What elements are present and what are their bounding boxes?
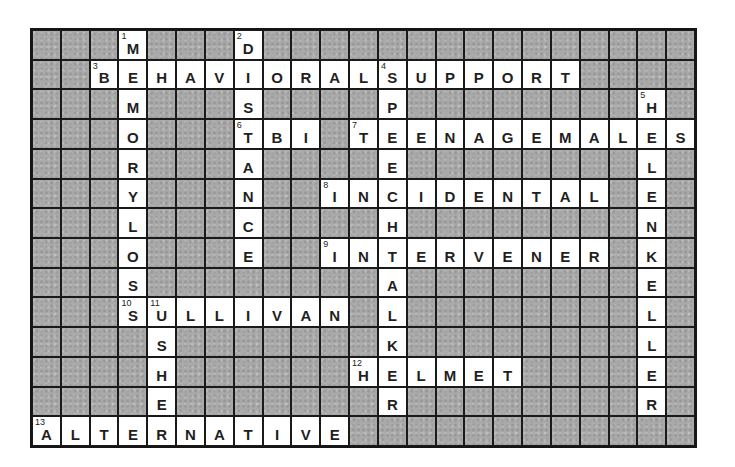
answer-cell[interactable]: V bbox=[264, 298, 291, 326]
answer-cell[interactable]: D bbox=[437, 180, 464, 208]
answer-cell[interactable]: L bbox=[350, 61, 377, 89]
answer-cell[interactable]: 13A bbox=[33, 417, 60, 445]
answer-cell[interactable]: I bbox=[408, 180, 435, 208]
answer-cell[interactable]: O bbox=[264, 61, 291, 89]
answer-cell[interactable]: N bbox=[523, 239, 550, 267]
answer-cell[interactable]: E bbox=[523, 120, 550, 148]
answer-cell[interactable]: E bbox=[638, 120, 665, 148]
answer-cell[interactable]: 4S bbox=[379, 61, 406, 89]
answer-cell[interactable]: E bbox=[148, 388, 175, 416]
answer-cell[interactable]: M bbox=[552, 120, 579, 148]
answer-cell[interactable]: L bbox=[610, 120, 637, 148]
answer-cell[interactable]: 3B bbox=[91, 61, 118, 89]
answer-cell[interactable]: 12H bbox=[350, 358, 377, 386]
answer-cell[interactable]: L bbox=[408, 358, 435, 386]
answer-cell[interactable]: T bbox=[494, 358, 521, 386]
answer-cell[interactable]: A bbox=[465, 120, 492, 148]
answer-cell[interactable]: N bbox=[437, 120, 464, 148]
answer-cell[interactable]: O bbox=[494, 61, 521, 89]
answer-cell[interactable]: N bbox=[321, 298, 348, 326]
answer-cell[interactable]: T bbox=[552, 61, 579, 89]
answer-cell[interactable]: L bbox=[177, 298, 204, 326]
answer-cell[interactable]: L bbox=[206, 298, 233, 326]
answer-cell[interactable]: T bbox=[523, 180, 550, 208]
answer-cell[interactable]: N bbox=[638, 209, 665, 237]
answer-cell[interactable]: S bbox=[148, 328, 175, 356]
answer-cell[interactable]: R bbox=[148, 417, 175, 445]
answer-cell[interactable]: 1M bbox=[119, 31, 146, 59]
answer-cell[interactable]: A bbox=[321, 61, 348, 89]
answer-cell[interactable]: U bbox=[408, 61, 435, 89]
answer-cell[interactable]: L bbox=[581, 180, 608, 208]
answer-cell[interactable]: N bbox=[350, 180, 377, 208]
answer-cell[interactable]: A bbox=[206, 417, 233, 445]
answer-cell[interactable]: 7T bbox=[350, 120, 377, 148]
answer-cell[interactable]: A bbox=[581, 120, 608, 148]
answer-cell[interactable]: S bbox=[119, 269, 146, 297]
answer-cell[interactable]: B bbox=[264, 120, 291, 148]
answer-cell[interactable]: A bbox=[552, 180, 579, 208]
answer-cell[interactable]: R bbox=[292, 61, 319, 89]
answer-cell[interactable]: E bbox=[638, 269, 665, 297]
answer-cell[interactable]: 2D bbox=[235, 31, 262, 59]
answer-cell[interactable]: I bbox=[292, 120, 319, 148]
answer-cell[interactable]: E bbox=[379, 358, 406, 386]
answer-cell[interactable]: K bbox=[379, 328, 406, 356]
answer-cell[interactable]: E bbox=[408, 239, 435, 267]
answer-cell[interactable]: L bbox=[638, 328, 665, 356]
answer-cell[interactable]: M bbox=[119, 90, 146, 118]
answer-cell[interactable]: L bbox=[119, 209, 146, 237]
answer-cell[interactable]: S bbox=[235, 90, 262, 118]
answer-cell[interactable]: V bbox=[465, 239, 492, 267]
answer-cell[interactable]: H bbox=[148, 358, 175, 386]
answer-cell[interactable]: O bbox=[119, 239, 146, 267]
answer-cell[interactable]: M bbox=[437, 358, 464, 386]
answer-cell[interactable]: E bbox=[465, 180, 492, 208]
answer-cell[interactable]: A bbox=[292, 298, 319, 326]
answer-cell[interactable]: E bbox=[494, 239, 521, 267]
answer-cell[interactable]: 10S bbox=[119, 298, 146, 326]
answer-cell[interactable]: E bbox=[379, 150, 406, 178]
answer-cell[interactable]: R bbox=[638, 388, 665, 416]
answer-cell[interactable]: K bbox=[638, 239, 665, 267]
answer-cell[interactable]: A bbox=[235, 150, 262, 178]
answer-cell[interactable]: L bbox=[379, 298, 406, 326]
answer-cell[interactable]: 8I bbox=[321, 180, 348, 208]
answer-cell[interactable]: E bbox=[119, 61, 146, 89]
answer-cell[interactable]: E bbox=[465, 358, 492, 386]
answer-cell[interactable]: E bbox=[638, 180, 665, 208]
answer-cell[interactable]: E bbox=[408, 120, 435, 148]
answer-cell[interactable]: L bbox=[638, 150, 665, 178]
answer-cell[interactable]: A bbox=[379, 269, 406, 297]
answer-cell[interactable]: L bbox=[62, 417, 89, 445]
answer-cell[interactable]: 6T bbox=[235, 120, 262, 148]
answer-cell[interactable]: 9I bbox=[321, 239, 348, 267]
answer-cell[interactable]: V bbox=[206, 61, 233, 89]
answer-cell[interactable]: A bbox=[177, 61, 204, 89]
answer-cell[interactable]: E bbox=[235, 239, 262, 267]
answer-cell[interactable]: O bbox=[119, 120, 146, 148]
answer-cell[interactable]: R bbox=[581, 239, 608, 267]
answer-cell[interactable]: P bbox=[437, 61, 464, 89]
answer-cell[interactable]: 5H bbox=[638, 90, 665, 118]
answer-cell[interactable]: R bbox=[523, 61, 550, 89]
answer-cell[interactable]: E bbox=[379, 120, 406, 148]
answer-cell[interactable]: 11U bbox=[148, 298, 175, 326]
answer-cell[interactable]: P bbox=[465, 61, 492, 89]
answer-cell[interactable]: E bbox=[119, 417, 146, 445]
answer-cell[interactable]: R bbox=[119, 150, 146, 178]
answer-cell[interactable]: T bbox=[91, 417, 118, 445]
answer-cell[interactable]: H bbox=[148, 61, 175, 89]
answer-cell[interactable]: L bbox=[638, 298, 665, 326]
answer-cell[interactable]: I bbox=[235, 298, 262, 326]
answer-cell[interactable]: T bbox=[379, 239, 406, 267]
answer-cell[interactable]: E bbox=[321, 417, 348, 445]
answer-cell[interactable]: I bbox=[235, 61, 262, 89]
answer-cell[interactable]: Y bbox=[119, 180, 146, 208]
answer-cell[interactable]: T bbox=[235, 417, 262, 445]
answer-cell[interactable]: P bbox=[379, 90, 406, 118]
answer-cell[interactable]: E bbox=[552, 239, 579, 267]
answer-cell[interactable]: N bbox=[235, 180, 262, 208]
answer-cell[interactable]: R bbox=[437, 239, 464, 267]
answer-cell[interactable]: C bbox=[379, 180, 406, 208]
